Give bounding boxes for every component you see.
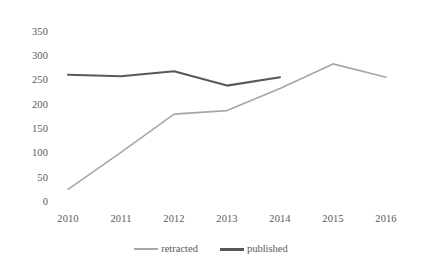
y-tick-label: 250: [18, 74, 48, 85]
legend-label: published: [247, 244, 288, 255]
legend-line-swatch-icon: [134, 248, 158, 250]
y-tick-label: 200: [18, 99, 48, 110]
series-line-published: [68, 71, 280, 85]
y-tick-label: 100: [18, 147, 48, 158]
legend-line-swatch-icon: [220, 248, 244, 251]
x-tick-label: 2013: [207, 213, 247, 224]
x-tick-label: 2016: [366, 213, 406, 224]
legend-item-retracted: retracted: [134, 244, 198, 255]
y-tick-label: 50: [18, 172, 48, 183]
y-tick-label: 350: [18, 26, 48, 37]
x-tick-label: 2010: [48, 213, 88, 224]
x-tick-label: 2011: [101, 213, 141, 224]
y-tick-label: 0: [18, 196, 48, 207]
y-tick-label: 150: [18, 123, 48, 134]
y-tick-label: 300: [18, 50, 48, 61]
legend-item-published: published: [220, 244, 288, 255]
x-tick-label: 2012: [154, 213, 194, 224]
series-line-retracted: [68, 64, 386, 189]
x-tick-label: 2015: [313, 213, 353, 224]
plot-area: [0, 0, 422, 280]
chart-legend: retracted published: [0, 241, 422, 257]
line-chart: 350 300 250 200 150 100 50 0 2010 2011 2…: [0, 0, 422, 280]
legend-label: retracted: [161, 244, 198, 255]
x-tick-label: 2014: [260, 213, 300, 224]
